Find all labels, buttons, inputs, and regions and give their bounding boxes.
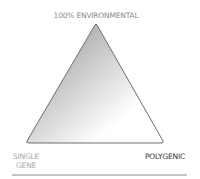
single-gene-label: SINGLE GENE: [13, 152, 39, 170]
triangle: [27, 24, 164, 143]
single-gene-line1: SINGLE: [13, 152, 39, 161]
polygenic-label: POLYGENIC: [145, 152, 185, 161]
single-gene-line2: GENE: [13, 161, 39, 170]
apex-label: 100% ENVIRONMENTAL: [0, 11, 192, 20]
